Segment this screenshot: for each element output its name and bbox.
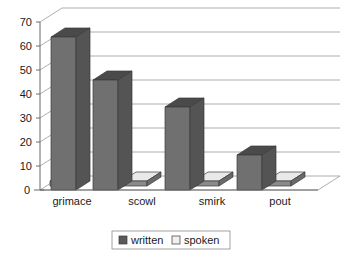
bar-pout-written[interactable]	[237, 146, 276, 190]
dark-square-swatch	[119, 236, 127, 244]
category-label-grimace: grimace	[52, 195, 91, 207]
y-tick-label-40: 40	[20, 88, 32, 100]
bar-smirk-written[interactable]	[165, 98, 204, 190]
bar-group-scowl[interactable]	[93, 71, 161, 190]
bar-group-smirk[interactable]	[165, 98, 233, 190]
x-axis-category-labels: grimace scowl smirk pout	[52, 195, 290, 207]
bar-group-grimace[interactable]	[50, 28, 90, 190]
legend-item-written[interactable]: written	[119, 234, 163, 246]
y-tick-label-30: 30	[20, 112, 32, 124]
bar-side-face	[76, 28, 90, 190]
bar-scowl-written[interactable]	[93, 71, 132, 190]
bar-front-face	[237, 155, 262, 190]
gridline-depth-70	[40, 8, 62, 22]
bar-front-face	[51, 37, 76, 190]
y-axis-tick-labels: 70 60 50 40 30 20 10 0	[20, 16, 32, 196]
chart-legend[interactable]: written spoken	[112, 231, 230, 249]
bar-side-face	[118, 71, 132, 190]
bar-chart-container: 70 60 50 40 30 20 10 0	[0, 0, 350, 260]
bar-grimace-written[interactable]	[51, 28, 90, 190]
y-tick-label-70: 70	[20, 16, 32, 28]
category-label-scowl: scowl	[128, 195, 156, 207]
y-tick-label-50: 50	[20, 64, 32, 76]
light-square-swatch	[172, 236, 180, 244]
legend-label-written: written	[130, 234, 163, 246]
legend-item-spoken[interactable]: spoken	[172, 234, 219, 246]
y-tick-label-10: 10	[20, 160, 32, 172]
bar-group-pout[interactable]	[237, 146, 305, 190]
bar-side-face	[190, 98, 204, 190]
legend-label-spoken: spoken	[184, 234, 219, 246]
chart-canvas: 70 60 50 40 30 20 10 0	[0, 0, 350, 260]
category-label-pout: pout	[269, 195, 290, 207]
bar-front-face	[165, 107, 190, 190]
category-label-smirk: smirk	[199, 195, 226, 207]
y-tick-label-20: 20	[20, 136, 32, 148]
y-tick-label-0: 0	[24, 184, 30, 196]
y-tick-label-60: 60	[20, 40, 32, 52]
bar-front-face	[93, 80, 118, 190]
